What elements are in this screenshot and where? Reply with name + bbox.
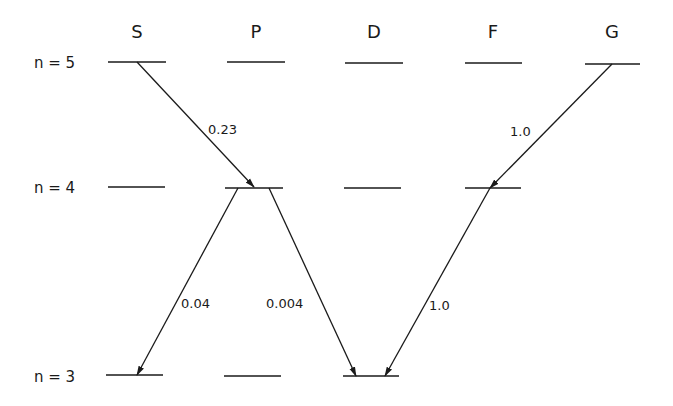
column-label-d: D [367,21,381,42]
transition-value-5s-4p: 0.23 [208,122,237,137]
transition-value-4p-3s: 0.04 [181,296,210,311]
column-label-f: F [488,21,498,42]
transition-arrow-4f-3d [385,188,490,376]
row-label-n3: n = 3 [34,368,75,386]
column-label-p: P [251,21,262,42]
transitions [137,62,612,376]
transition-value-5g-4f: 1.0 [510,124,531,139]
transition-arrow-5g-4f [490,64,612,188]
transition-arrow-4p-3d [269,188,356,376]
energy-level-diagram: S P D F G n = 5 n = 4 n = 3 0.23 1.0 0.0… [0,0,673,406]
column-labels: S P D F G [131,21,619,42]
column-label-g: G [605,21,619,42]
row-label-n4: n = 4 [34,179,75,197]
transition-value-4f-3d: 1.0 [429,298,450,313]
transition-arrow-4p-3s [137,188,238,375]
transition-values: 0.23 1.0 0.04 0.004 1.0 [181,122,531,313]
row-labels: n = 5 n = 4 n = 3 [34,54,75,386]
column-label-s: S [131,21,142,42]
row-label-n5: n = 5 [34,54,75,72]
energy-levels [106,62,640,376]
transition-value-4p-3d: 0.004 [266,296,303,311]
